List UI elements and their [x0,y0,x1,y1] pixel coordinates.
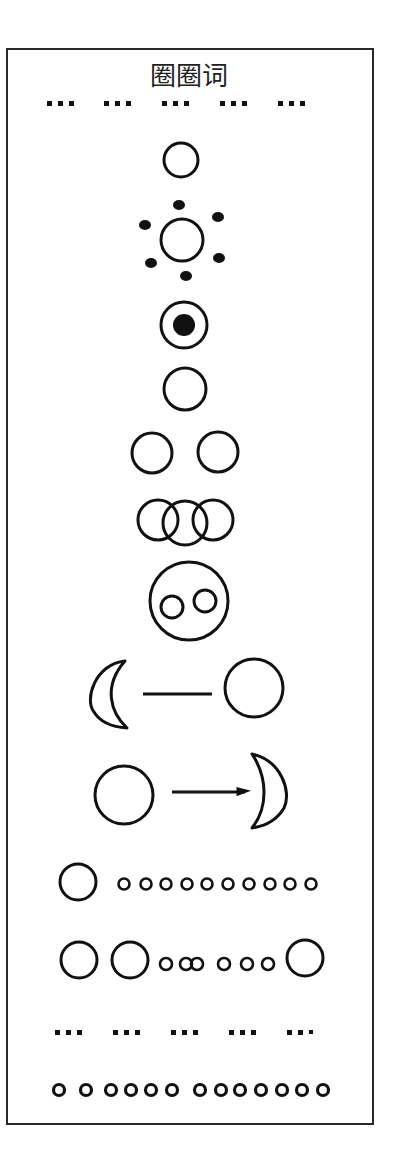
circle-line-crescent-icon [95,754,287,828]
big-small-big-circles-icon [61,940,323,978]
circle-with-two-inner-circles-icon [150,562,228,640]
crescent-line-circle-icon [90,659,283,728]
small-circles-row-icon [54,1085,329,1096]
three-overlapping-circles-icon [138,500,233,545]
dot-separator-bottom [55,1030,313,1035]
big-circle-small-circles-icon [60,864,317,900]
single-circle-icon [164,143,198,177]
target-circle-icon [161,302,207,348]
single-circle-icon [164,368,206,410]
symbol-diagram [0,0,403,1160]
sun-circle-icon [139,200,225,281]
two-circles-icon [132,432,238,473]
dot-separator-top [47,101,305,106]
